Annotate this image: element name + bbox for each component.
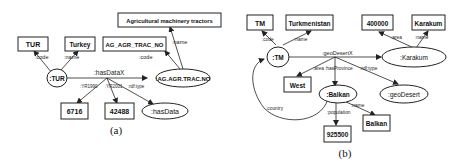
- node-a-val2001: 42488: [105, 103, 134, 119]
- edge-label-b-code: :code: [262, 37, 274, 42]
- edge-label-b-type: :rdf:type: [360, 66, 378, 71]
- node-a-hasdata: :hasData: [142, 103, 188, 119]
- svg-text:6716: 6716: [67, 108, 83, 115]
- svg-text::TUR: :TUR: [49, 75, 65, 82]
- svg-text::geoDesert: :geoDesert: [388, 91, 420, 99]
- svg-text:Turkey: Turkey: [70, 41, 91, 49]
- edge-label-b-population: :population: [327, 110, 351, 115]
- edge-a-yr1990: [77, 78, 107, 103]
- node-a-ag-code: AG_AGR_TRAC_NO: [103, 37, 166, 51]
- edge-label-b-area2: :area: [313, 66, 324, 71]
- edge-label-a-code1: :code: [35, 54, 48, 60]
- node-b-balkan-resource: :Balkan: [319, 85, 357, 103]
- svg-text:400000: 400000: [367, 20, 389, 27]
- svg-text::Balkan: :Balkan: [326, 91, 350, 98]
- diagram-b: :code :name :geoDesertX :area :name :are…: [247, 15, 446, 160]
- edge-label-b-name1: :name: [294, 37, 308, 42]
- svg-text::AG.AGR.TRAC.NO: :AG.AGR.TRAC.NO: [156, 76, 211, 82]
- svg-text:Turkmenistan: Turkmenistan: [288, 20, 330, 27]
- edge-label-a-name1: :name: [64, 54, 79, 60]
- edge-label-a-code2: :code: [139, 54, 152, 60]
- diagram-canvas: :code :name :hasDataX :code :name :YR199…: [0, 0, 462, 164]
- node-b-geodesert: :geoDesert: [380, 85, 428, 103]
- svg-text:TM: TM: [255, 20, 265, 27]
- node-b-area-value: 400000: [362, 15, 393, 30]
- edge-label-b-hasprovince: :hasProvince: [325, 66, 353, 71]
- edge-label-a-name2: :name: [172, 39, 187, 45]
- node-a-tur-code: TUR: [18, 37, 48, 51]
- node-a-val1990: 6716: [61, 103, 88, 119]
- edge-label-a-hasdatax: :hasDataX: [94, 69, 125, 76]
- edge-label-b-name3: :name: [351, 103, 365, 108]
- edge-label-b-geodesertx: :geoDesertX: [322, 50, 353, 56]
- edge-a-code2: [165, 51, 180, 69]
- node-b-karakum-resource: :Karakum: [382, 47, 446, 67]
- svg-text:AG_AGR_TRAC_NO: AG_AGR_TRAC_NO: [105, 42, 163, 48]
- svg-text:TUR: TUR: [26, 41, 40, 48]
- caption-b: (b): [339, 147, 352, 160]
- svg-text:Balkan: Balkan: [366, 120, 387, 127]
- svg-text:42488: 42488: [110, 108, 130, 115]
- node-b-population-value: 925500: [324, 126, 351, 142]
- node-b-balkan-name: Balkan: [363, 115, 390, 131]
- svg-text:West: West: [290, 82, 306, 89]
- node-a-tur-resource: :TUR: [47, 69, 67, 87]
- node-b-karakum-name: Karakum: [412, 15, 445, 30]
- caption-a: (a): [110, 124, 123, 137]
- node-a-ag-name: Agricultural machinery tractors: [118, 13, 221, 27]
- diagram-a: :code :name :hasDataX :code :name :YR199…: [18, 13, 221, 137]
- node-a-ag-resource: :AG.AGR.TRAC.NO: [156, 69, 211, 87]
- edge-label-b-area: :area: [391, 35, 402, 40]
- node-b-tm-resource: :TM: [267, 47, 289, 67]
- node-b-west: West: [284, 77, 311, 92]
- edge-a-type: [107, 78, 153, 104]
- edge-a-yr2001: [107, 78, 117, 103]
- node-b-tm-code: TM: [247, 15, 273, 30]
- svg-text:925500: 925500: [327, 131, 349, 138]
- edge-label-a-yr1990: :YR1990: [80, 84, 98, 89]
- svg-text::Karakum: :Karakum: [400, 54, 428, 61]
- edge-label-b-country: :country: [266, 106, 284, 111]
- edge-label-a-yr2001: :YR2001: [105, 84, 123, 89]
- svg-text::TM: :TM: [272, 54, 284, 61]
- edge-label-b-name2: :name: [415, 35, 429, 40]
- node-a-turkey: Turkey: [65, 37, 95, 51]
- node-b-turkmenistan: Turkmenistan: [286, 15, 333, 30]
- svg-text:Karakum: Karakum: [415, 20, 443, 27]
- svg-text:Agricultural machinery tractor: Agricultural machinery tractors: [126, 18, 212, 24]
- edge-a-name2: [170, 27, 183, 69]
- edge-label-a-type: :rdf:type: [128, 84, 145, 89]
- svg-text::hasData: :hasData: [151, 108, 179, 115]
